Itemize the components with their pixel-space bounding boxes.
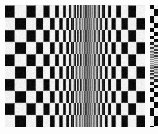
main-checkerboard-panel <box>0 0 158 134</box>
miniature-sweep-strip <box>0 0 158 134</box>
test-pattern-stage <box>0 0 158 134</box>
checkerboard-sweep-canvas <box>0 0 158 134</box>
